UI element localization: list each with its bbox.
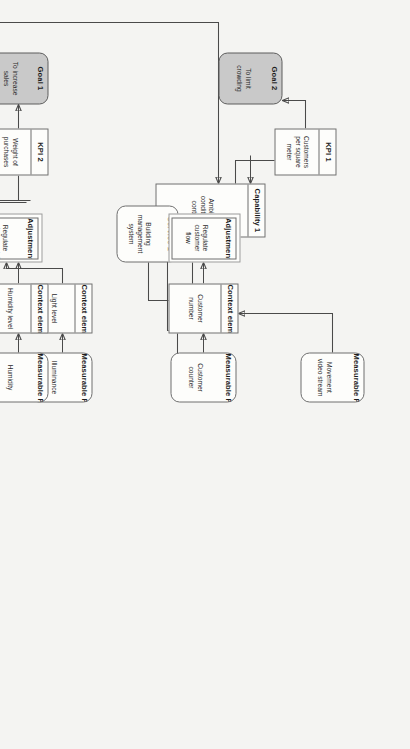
goal-2-body: To limit crowding [219,53,266,103]
node-measurable-property-1[interactable]: Measurable Property 1 Humidity [0,352,48,402]
node-measurable-property-6[interactable]: Measurable Property 6 Movement video str… [300,352,364,402]
goal-1-header: Goal 1 [32,53,47,103]
context-element-1-body: Humidity level [0,284,30,332]
service-1-body: Building management system [117,206,160,261]
adjustment-1-inner: Adjustment 1 Regulate environmental sett… [0,217,39,259]
node-kpi-1[interactable]: KPI 1 Customers per square meter [274,128,336,175]
adjustment-2-inner: Adjustment 2 Regulate customer flow [172,217,237,259]
measurable-property-5-header: Measurable Property 5 [218,353,235,401]
capability-1-header: Capability 1 [247,184,264,236]
node-adjustment-1[interactable]: Adjustment 1 Regulate environmental sett… [0,213,42,262]
measurable-property-4-header: Measurable Property 4 [74,353,91,401]
measurable-property-6-header: Measurable Property 6 [346,353,363,401]
node-measurable-property-5[interactable]: Measurable Property 5 Customer counter [170,352,236,402]
adjustment-1-body: Regulate environmental settings [0,218,21,258]
node-context-element-1[interactable]: Context element 1 Humidity level [0,283,48,333]
kpi-2-body: Weight of purchases [0,129,30,174]
diagram-rotated-group: Goal 2 To limit crowding Goal 1 To incre… [0,0,410,749]
measurable-property-5-body: Customer counter [171,353,218,401]
kpi-2-header: KPI 2 [30,129,47,174]
measurable-property-1-body: Humidity [0,353,30,401]
measurable-property-1-header: Measurable Property 1 [30,353,47,401]
node-kpi-2[interactable]: KPI 2 Weight of purchases [0,128,48,175]
node-adjustment-2[interactable]: Adjustment 2 Regulate customer flow [168,213,240,262]
goal-1-body: To increase sales [0,53,32,103]
node-context-element-5[interactable]: Context element 5 Customer number [168,283,238,333]
adjustment-2-body: Regulate customer flow [173,218,219,258]
kpi-1-header: KPI 1 [318,129,335,174]
kpi-1-body: Customers per square meter [275,129,318,174]
context-element-5-body: Customer number [169,284,220,332]
diagram-canvas: Goal 2 To limit crowding Goal 1 To incre… [0,0,410,749]
adjustment-2-header: Adjustment 2 [219,218,236,258]
context-element-5-header: Context element 5 [220,284,237,332]
context-element-4-header: Context element 4 [74,284,91,332]
goal-2-header: Goal 2 [266,53,281,103]
measurable-property-6-body: Movement video stream [301,353,346,401]
adjustment-1-header: Adjustment 1 [21,218,38,258]
node-goal-2[interactable]: Goal 2 To limit crowding [218,52,282,104]
node-goal-1[interactable]: Goal 1 To increase sales [0,52,48,104]
context-element-1-header: Context element 1 [30,284,47,332]
